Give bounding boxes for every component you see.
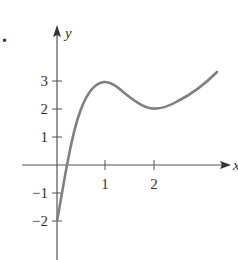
y-tick-label-neg1: −1 [32, 185, 48, 201]
function-curve [57, 72, 217, 221]
x-axis: x 1 2 [22, 157, 238, 192]
y-tick-label-1: 1 [41, 129, 49, 145]
x-axis-label: x [232, 157, 238, 173]
y-tick-label-3: 3 [41, 73, 49, 89]
problem-marker: . [2, 24, 7, 46]
function-graph: . x 1 2 y −2 −1 1 2 3 [0, 0, 238, 260]
y-axis-label: y [63, 25, 72, 41]
x-tick-label-1: 1 [101, 176, 109, 192]
y-tick-label-neg2: −2 [32, 213, 48, 229]
y-axis: y −2 −1 1 2 3 [32, 25, 72, 260]
y-tick-label-2: 2 [41, 101, 49, 117]
x-tick-label-2: 2 [150, 176, 158, 192]
